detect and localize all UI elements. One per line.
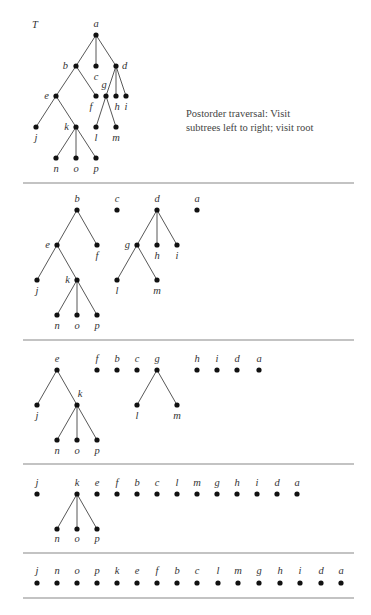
node-e: [54, 242, 59, 247]
node-label-a: a: [93, 18, 98, 29]
node-m: [113, 124, 118, 129]
node-label-p: p: [93, 320, 99, 331]
node-g: [256, 580, 261, 585]
node-label-i: i: [176, 250, 179, 261]
node-c: [194, 580, 199, 585]
node-g: [134, 242, 139, 247]
traversal-steps: abcdefghijklmnopbcdaefghijklmnopefbcghid…: [33, 18, 344, 586]
node-label-a: a: [256, 353, 261, 364]
node-label-f: f: [96, 250, 101, 261]
node-e: [54, 367, 59, 372]
node-a: [93, 32, 98, 37]
section-step-1: bcdaefghijklmnop: [34, 193, 200, 331]
node-m: [174, 402, 179, 407]
node-n: [54, 580, 59, 585]
node-k: [73, 124, 78, 129]
node-label-l: l: [176, 477, 179, 488]
edge-a-d: [96, 35, 116, 66]
node-h: [194, 367, 199, 372]
node-e: [134, 580, 139, 585]
node-a: [294, 491, 299, 496]
node-f: [154, 580, 159, 585]
node-label-j: j: [34, 285, 39, 296]
node-a: [194, 207, 199, 212]
node-label-h: h: [114, 101, 119, 112]
edge-d-g: [106, 66, 116, 96]
node-j: [34, 580, 39, 585]
edge-b-f: [77, 210, 97, 245]
node-n: [54, 312, 59, 317]
node-label-l: l: [116, 285, 119, 296]
edge-k-p: [77, 405, 97, 440]
node-i: [123, 93, 128, 98]
node-m: [194, 491, 199, 496]
node-i: [254, 491, 259, 496]
section-original-tree: abcdefghijklmnop: [33, 18, 129, 174]
node-label-i: i: [256, 477, 259, 488]
node-label-j: j: [34, 410, 39, 421]
node-b: [73, 63, 78, 68]
node-label-p: p: [93, 445, 99, 456]
node-label-p: p: [93, 565, 99, 576]
node-label-o: o: [74, 533, 79, 544]
node-i: [174, 242, 179, 247]
node-label-m: m: [173, 410, 181, 421]
node-label-j: j: [34, 477, 39, 488]
node-o: [74, 580, 79, 585]
node-label-o: o: [73, 163, 78, 174]
edge-k-n: [57, 405, 77, 440]
edge-e-j: [37, 370, 57, 405]
node-label-a: a: [294, 477, 299, 488]
node-label-c: c: [135, 353, 140, 364]
node-label-g: g: [101, 79, 106, 90]
node-k: [74, 491, 79, 496]
section-separators: [23, 183, 354, 598]
node-b: [174, 580, 179, 585]
node-f: [94, 242, 99, 247]
node-label-m: m: [234, 565, 242, 576]
node-a: [338, 580, 343, 585]
node-label-e: e: [45, 239, 50, 250]
node-label-g: g: [256, 565, 261, 576]
node-label-m: m: [112, 132, 120, 143]
node-label-d: d: [234, 353, 240, 364]
edge-d-g: [137, 210, 157, 245]
node-label-d: d: [154, 193, 160, 204]
node-d: [318, 580, 323, 585]
node-label-n: n: [54, 320, 59, 331]
node-label-m: m: [153, 285, 161, 296]
node-a: [256, 367, 261, 372]
edge-k-p: [77, 280, 97, 315]
node-label-n: n: [53, 163, 58, 174]
node-label-b: b: [114, 353, 119, 364]
edge-g-l: [117, 245, 137, 280]
node-l: [114, 277, 119, 282]
node-f: [93, 93, 98, 98]
edge-g-l: [137, 370, 157, 405]
section-final-order: jnopkefbclmghida: [34, 565, 344, 586]
node-h: [113, 93, 118, 98]
node-label-l: l: [217, 565, 220, 576]
node-b: [134, 491, 139, 496]
node-label-d: d: [274, 477, 280, 488]
node-label-f: f: [116, 477, 121, 488]
node-f: [114, 491, 119, 496]
node-label-o: o: [74, 320, 79, 331]
node-label-h: h: [277, 565, 282, 576]
edge-g-m: [157, 370, 177, 405]
node-label-f: f: [90, 101, 95, 112]
node-i: [214, 367, 219, 372]
node-label-g: g: [154, 353, 159, 364]
node-label-i: i: [125, 101, 128, 112]
node-h: [234, 491, 239, 496]
node-label-f: f: [96, 353, 101, 364]
node-label-a: a: [338, 565, 343, 576]
node-label-h: h: [154, 250, 159, 261]
node-h: [277, 580, 282, 585]
node-label-d: d: [122, 60, 128, 71]
node-p: [94, 580, 99, 585]
node-label-n: n: [54, 565, 59, 576]
node-label-l: l: [95, 132, 98, 143]
edge-g-l: [96, 96, 106, 127]
node-label-g: g: [125, 239, 130, 250]
